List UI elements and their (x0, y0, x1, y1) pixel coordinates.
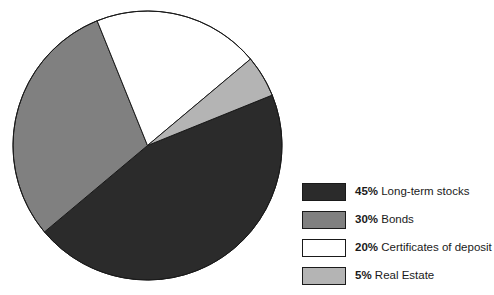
legend-text: 20% Certificates of deposit (355, 241, 492, 254)
legend-percent: 30% (355, 213, 378, 225)
legend-swatch (302, 239, 346, 257)
legend-swatch (302, 183, 346, 201)
legend-label: Real Estate (372, 269, 435, 281)
legend-item: 45% Long-term stocks (302, 182, 492, 201)
legend-swatch (302, 267, 346, 285)
pie-svg (12, 10, 283, 281)
legend-swatch (302, 211, 346, 229)
legend-percent: 5% (355, 269, 372, 281)
legend-text: 5% Real Estate (355, 269, 434, 282)
pie-chart-graphic (12, 10, 283, 281)
legend-item: 30% Bonds (302, 210, 492, 229)
legend-label: Long-term stocks (378, 185, 469, 197)
pie-slice-group (13, 11, 282, 280)
legend-item: 20% Certificates of deposit (302, 238, 492, 257)
legend-text: 45% Long-term stocks (355, 185, 469, 198)
legend-label: Bonds (378, 213, 414, 225)
legend-item: 5% Real Estate (302, 266, 492, 285)
legend-percent: 20% (355, 241, 378, 253)
legend-percent: 45% (355, 185, 378, 197)
legend-label: Certificates of deposit (378, 241, 492, 253)
legend-text: 30% Bonds (355, 213, 414, 226)
pie-chart-figure: 45% Long-term stocks30% Bonds20% Certifi… (0, 0, 494, 295)
chart-legend: 45% Long-term stocks30% Bonds20% Certifi… (302, 182, 492, 285)
